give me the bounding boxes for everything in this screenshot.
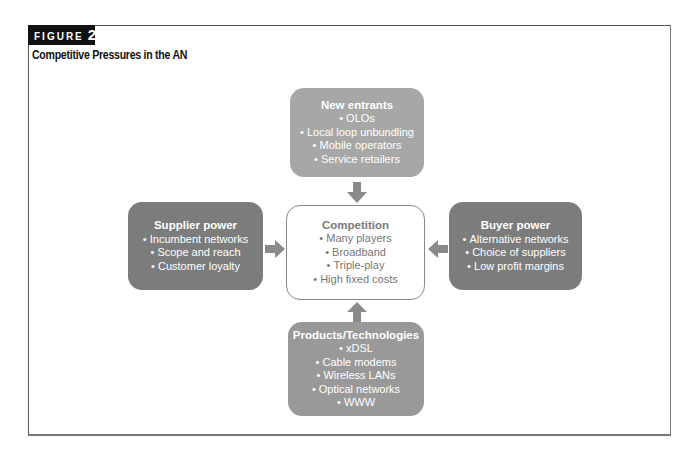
list-item: Many players <box>319 232 391 246</box>
arrow-up-icon <box>346 302 368 322</box>
supplier-power-box: Supplier power Incumbent networks Scope … <box>128 202 263 290</box>
arrow-right-icon <box>265 240 286 258</box>
box-title: Buyer power <box>481 219 551 233</box>
list-item: Service retailers <box>314 153 400 167</box>
box-title: Products/Technologies <box>293 329 419 343</box>
list-item: Scope and reach <box>150 246 240 260</box>
figure-number: 2 <box>88 26 96 43</box>
arrow-left-icon <box>427 240 448 258</box>
list-item: Customer loyalty <box>151 260 240 274</box>
list-item: Wireless LANs <box>316 369 395 383</box>
arrow-down-icon <box>346 182 368 204</box>
list-item: Local loop unbundling <box>300 126 414 140</box>
products-technologies-box: Products/Technologies xDSL Cable modems … <box>288 322 424 416</box>
list-item: Optical networks <box>312 383 400 397</box>
list-item: High fixed costs <box>313 273 398 287</box>
list-item: WWW <box>337 396 375 410</box>
list-item: Broadband <box>325 246 386 260</box>
list-item: Triple-play <box>327 259 385 273</box>
competition-box: Competition Many players Broadband Tripl… <box>286 205 425 300</box>
figure-label-badge: FIGURE2 <box>28 25 95 45</box>
box-title: Supplier power <box>154 219 237 233</box>
buyer-power-box: Buyer power Alternative networks Choice … <box>449 202 582 290</box>
list-item: Alternative networks <box>463 233 569 247</box>
figure-label-text: FIGURE <box>34 31 84 42</box>
list-item: Mobile operators <box>313 139 402 153</box>
list-item: Incumbent networks <box>143 233 248 247</box>
list-item: xDSL <box>339 342 373 356</box>
box-title: New entrants <box>321 99 393 113</box>
list-item: Choice of suppliers <box>465 246 565 260</box>
list-item: Low profit margins <box>467 260 564 274</box>
list-item: OLOs <box>339 112 375 126</box>
list-item: Cable modems <box>316 356 397 370</box>
box-title: Competition <box>322 219 389 233</box>
new-entrants-box: New entrants OLOs Local loop unbundling … <box>290 88 424 177</box>
figure-title: Competitive Pressures in the AN <box>32 48 187 62</box>
